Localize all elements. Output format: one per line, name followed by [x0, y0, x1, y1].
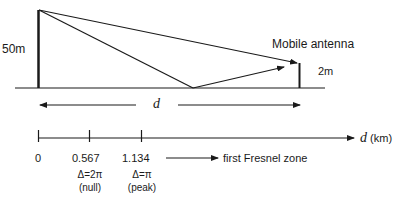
peak-phase-label: Δ=π: [124, 170, 160, 180]
axis-label: d (km): [360, 131, 392, 145]
tick-label-1: 0.567: [72, 153, 100, 164]
tick-label-0: 0: [35, 153, 41, 164]
axis-unit: (km): [370, 132, 392, 144]
direct-ray: [39, 10, 297, 63]
mobile-height-label: 2m: [318, 66, 333, 77]
peak-note-label: (peak): [124, 183, 160, 193]
two-ray-diagram: [0, 0, 396, 199]
incident-ray: [39, 10, 193, 88]
mobile-antenna-label: Mobile antenna: [272, 38, 354, 50]
distance-symbol: d: [153, 97, 160, 111]
axis-symbol: d: [360, 130, 367, 145]
reflected-ray: [193, 67, 284, 88]
fresnel-zone-label: first Fresnel zone: [223, 153, 307, 164]
null-note-label: (null): [74, 183, 106, 193]
base-station-height-label: 50m: [2, 43, 25, 55]
tick-label-2: 1.134: [122, 153, 150, 164]
null-phase-label: Δ=2π: [74, 170, 106, 180]
